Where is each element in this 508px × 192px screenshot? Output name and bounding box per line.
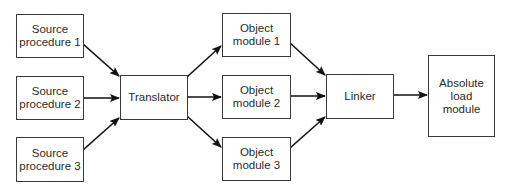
arrow-source3-to-translator	[83, 118, 119, 150]
source-procedure-2-box: Source procedure 2	[16, 76, 84, 120]
object-module-3-box: Object module 3	[222, 137, 291, 181]
arrow-object1-to-linker	[290, 43, 325, 75]
arrow-translator-to-object1	[187, 46, 221, 77]
source-procedure-3-label: Source procedure 3	[19, 147, 80, 173]
translator-label: Translator	[128, 91, 179, 104]
object-module-3-label: Object module 3	[233, 146, 280, 172]
object-module-2-box: Object module 2	[222, 75, 291, 119]
arrow-object3-to-linker	[290, 117, 325, 148]
source-procedure-2-label: Source procedure 2	[19, 85, 80, 111]
linker-box: Linker	[326, 74, 394, 119]
absolute-load-module-box: Absolute load module	[428, 55, 495, 137]
absolute-load-module-label: Absolute load module	[439, 77, 484, 116]
object-module-2-label: Object module 2	[233, 84, 280, 110]
object-module-1-label: Object module 1	[233, 22, 280, 48]
source-procedure-1-box: Source procedure 1	[16, 14, 84, 58]
object-module-1-box: Object module 1	[222, 13, 291, 57]
linker-label: Linker	[344, 90, 375, 103]
arrow-translator-to-object3	[187, 116, 221, 147]
translator-box: Translator	[120, 75, 188, 120]
source-procedure-3-box: Source procedure 3	[16, 137, 84, 182]
source-procedure-1-label: Source procedure 1	[19, 23, 80, 49]
arrow-source1-to-translator	[83, 44, 119, 76]
